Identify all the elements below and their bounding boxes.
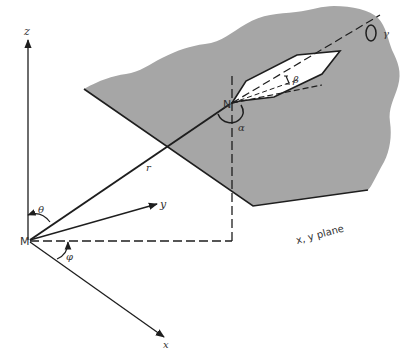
alpha-label: α	[238, 122, 245, 133]
range-label: r	[146, 162, 152, 173]
y-axis	[30, 204, 157, 240]
gamma-label: γ	[383, 28, 389, 39]
y-axis-label: y	[159, 198, 167, 211]
beta-label: β	[292, 74, 299, 85]
plane-label: x, y plane	[295, 223, 345, 246]
x-axis	[30, 242, 164, 337]
origin-label: M	[20, 235, 30, 248]
theta-label: θ	[38, 204, 44, 215]
range-vector	[30, 104, 230, 240]
z-axis-label: z	[23, 25, 30, 38]
x-axis-label: x	[163, 339, 169, 350]
phi-label: φ	[66, 251, 73, 262]
target-label: N	[223, 98, 231, 111]
coordinate-diagram: z y x M N r θ φ α β γ x, y plane	[0, 0, 414, 361]
